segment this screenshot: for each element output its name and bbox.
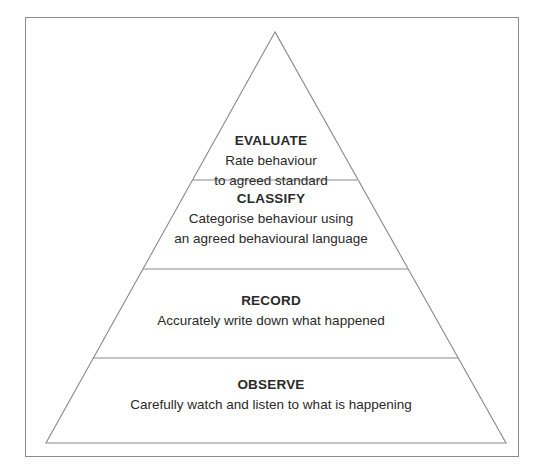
tier-title: CLASSIFY	[0, 189, 542, 209]
tier-record: RECORD Accurately write down what happen…	[0, 291, 542, 331]
tier-description-line: an agreed behavioural language	[0, 229, 542, 249]
tier-evaluate: EVALUATE Rate behaviour to agreed standa…	[0, 131, 542, 191]
tier-title: RECORD	[0, 291, 542, 311]
tier-title: OBSERVE	[0, 375, 542, 395]
tier-observe: OBSERVE Carefully watch and listen to wh…	[0, 375, 542, 415]
tier-description-line: Categorise behaviour using	[0, 209, 542, 229]
tier-description-line: Carefully watch and listen to what is ha…	[0, 395, 542, 415]
tier-classify: CLASSIFY Categorise behaviour using an a…	[0, 189, 542, 249]
tier-description-line: to agreed standard	[0, 171, 542, 191]
tier-title: EVALUATE	[0, 131, 542, 151]
tier-description-line: Accurately write down what happened	[0, 311, 542, 331]
tier-description-line: Rate behaviour	[0, 151, 542, 171]
